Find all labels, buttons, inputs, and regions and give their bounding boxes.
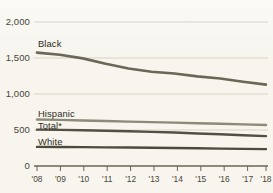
x-tick-label-10: '10 xyxy=(73,174,95,184)
y-tick-label-0: 0 xyxy=(0,160,30,171)
chart-plot-area xyxy=(0,0,273,193)
y-tick-label-1500: 1,500 xyxy=(0,52,30,63)
series-line-hispanic xyxy=(37,120,266,125)
series-label-hispanic: Hispanic xyxy=(38,108,75,119)
x-tick-label-18: '18 xyxy=(255,174,273,184)
series-label-white: White xyxy=(38,136,62,147)
x-tick-label-14: '14 xyxy=(166,174,188,184)
x-tick-label-08: '08 xyxy=(26,174,48,184)
series-label-total: Total* xyxy=(38,120,62,131)
y-tick-label-2000: 2,000 xyxy=(0,16,30,27)
x-tick-label-13: '13 xyxy=(143,174,165,184)
x-tick-label-11: '11 xyxy=(96,174,118,184)
line-chart: 2,000 1,500 1,000 500 0 '08 '09 '10 '11 … xyxy=(0,0,273,193)
series-lines xyxy=(37,53,266,149)
x-tick-label-12: '12 xyxy=(120,174,142,184)
series-label-black: Black xyxy=(38,38,61,49)
series-line-black xyxy=(37,53,266,85)
series-line-white xyxy=(37,147,266,149)
y-tick-label-1000: 1,000 xyxy=(0,88,30,99)
x-tick-label-16: '16 xyxy=(213,174,235,184)
x-tick-marks xyxy=(37,166,266,171)
x-tick-label-09: '09 xyxy=(49,174,71,184)
series-line-total xyxy=(37,130,266,136)
y-tick-label-500: 500 xyxy=(0,124,30,135)
x-tick-label-15: '15 xyxy=(190,174,212,184)
